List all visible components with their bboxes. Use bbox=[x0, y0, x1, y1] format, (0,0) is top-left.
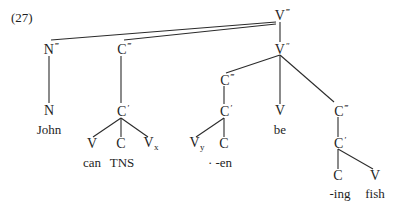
node-subject-n: N bbox=[44, 104, 54, 118]
word-ing: -ing bbox=[330, 187, 351, 200]
edge-perf-cbar-to-vy bbox=[196, 118, 224, 137]
node-perf-cbar: C′ bbox=[220, 104, 232, 119]
edge-vbar2-to-perf-cp bbox=[226, 55, 280, 73]
node-main-v: V bbox=[275, 104, 285, 118]
edge-modal-cbar-to-v bbox=[93, 118, 121, 137]
node-modal-c: C bbox=[116, 137, 125, 151]
node-modal-cp: C‴ bbox=[117, 42, 131, 57]
word-fish: fish bbox=[365, 187, 385, 200]
edge-root-to-np bbox=[51, 22, 276, 40]
edge-vbar2-to-prog-cp bbox=[280, 55, 334, 102]
edge-prog-cbar-to-v bbox=[338, 149, 373, 169]
node-root-vp: V‴ bbox=[275, 8, 289, 23]
node-prog-v: V bbox=[370, 169, 380, 183]
word-be: be bbox=[274, 123, 286, 136]
node-perf-c: C bbox=[219, 137, 228, 151]
node-perf-cp: C‴ bbox=[220, 73, 234, 88]
node-prog-cbar: C′ bbox=[334, 136, 346, 151]
word-tns: TNS bbox=[110, 156, 135, 169]
node-perf-vy: Vy bbox=[189, 136, 204, 152]
node-subject-np: N‴ bbox=[44, 42, 58, 57]
syntax-tree-diagram: (27) V‴ V″ N‴ N John C‴ C′ V can C TNS V… bbox=[0, 0, 393, 206]
node-prog-cp: C‴ bbox=[334, 104, 348, 119]
node-modal-cbar: C′ bbox=[117, 104, 129, 119]
word-en: · -en bbox=[208, 156, 232, 169]
node-prog-c: C bbox=[333, 169, 342, 183]
node-modal-vx: Vx bbox=[143, 136, 158, 152]
node-v-double-bar: V″ bbox=[275, 42, 289, 57]
example-number: (27) bbox=[11, 10, 33, 26]
word-john: John bbox=[37, 123, 62, 136]
node-modal-v: V bbox=[87, 137, 97, 151]
word-can: can bbox=[83, 156, 101, 169]
